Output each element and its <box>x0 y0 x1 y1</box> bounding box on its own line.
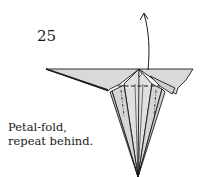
lift-arrow-icon <box>144 14 149 70</box>
fold-illustration <box>0 0 210 177</box>
origami-diagram: 25 Petal-fold, repeat behind. <box>0 0 210 177</box>
